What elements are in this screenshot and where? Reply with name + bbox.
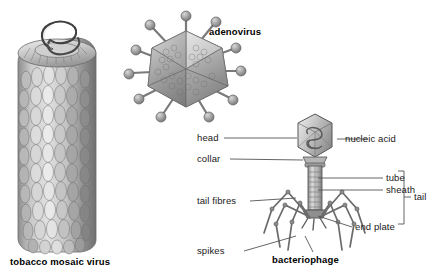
caption-bacteriophage: bacteriophage (272, 255, 339, 265)
label-tail: tail (414, 192, 427, 202)
label-spikes: spikes (197, 246, 225, 256)
caption-adenovirus: adenovirus (209, 27, 261, 37)
label-end-plate: end plate (355, 222, 395, 232)
bacteriophage-spikes (302, 218, 326, 230)
bacteriophage-collar (303, 157, 327, 167)
label-sheath: sheath (386, 185, 415, 195)
bacteriophage-head (298, 114, 332, 157)
caption-tobacco-mosaic-virus: tobacco mosaic virus (10, 257, 110, 267)
label-tail-fibres: tail fibres (197, 196, 236, 206)
label-head: head (197, 133, 219, 143)
label-collar: collar (197, 154, 220, 164)
virus-structures-figure: tobacco mosaic virus adenovirus bacterio… (0, 0, 439, 278)
bacteriophage-sheath (308, 166, 322, 210)
tobacco-mosaic-virus-illustration (18, 22, 96, 254)
adenovirus-capsid (148, 31, 228, 107)
label-nucleic-acid: nucleic acid (345, 134, 396, 144)
label-tube: tube (386, 173, 405, 183)
